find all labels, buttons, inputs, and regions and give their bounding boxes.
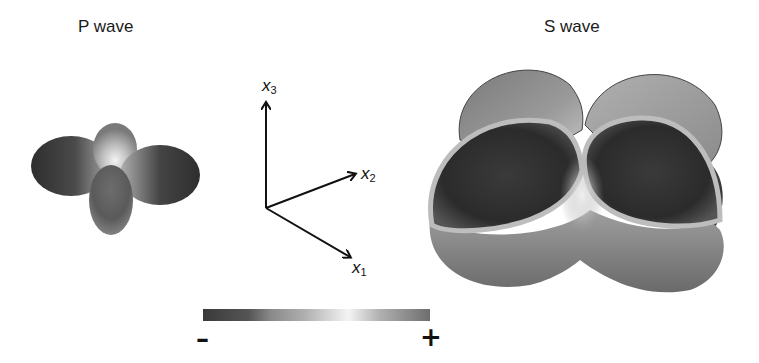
x1-axis-label: x1 [352,258,367,278]
s-wave-surface [420,50,740,310]
s-wave-title: S wave [544,17,600,37]
colorbar-max-label: + [420,324,442,350]
p-wave-surface [25,115,215,245]
x1-axis-arrow [266,208,350,257]
x2-axis-label: x2 [361,164,376,184]
colorbar-min-label: – [196,326,209,352]
colorbar [203,309,430,321]
x2-axis-arrow [266,174,355,208]
x3-axis-label: x3 [262,76,277,96]
coordinate-axes [255,95,375,275]
p-wave-title: P wave [78,17,133,37]
